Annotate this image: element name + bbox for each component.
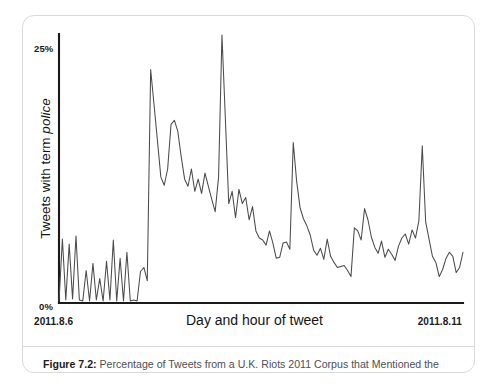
y-axis-title-emphasis: police — [38, 98, 53, 133]
figure-caption-label: Figure 7.2: — [43, 358, 97, 370]
chart-plot-region: 25% 0% 2011.8.6 2011.8.11 Tweets with te… — [23, 16, 475, 316]
figure-caption-text: Percentage of Tweets from a U.K. Riots 2… — [43, 358, 439, 373]
caption-divider — [23, 346, 474, 347]
figure-card: 25% 0% 2011.8.6 2011.8.11 Tweets with te… — [22, 15, 475, 373]
chart-canvas — [23, 16, 475, 316]
y-axis-tick-top: 25% — [34, 43, 53, 54]
x-axis-title: Day and hour of tweet — [23, 312, 475, 328]
y-axis-title-plain: Tweets with term — [38, 134, 53, 239]
data-series-police-percentage — [59, 35, 463, 301]
y-axis-tick-bottom: 0% — [39, 301, 53, 312]
y-axis-title: Tweets with term police — [38, 74, 53, 264]
figure-caption: Figure 7.2: Percentage of Tweets from a … — [43, 355, 456, 373]
